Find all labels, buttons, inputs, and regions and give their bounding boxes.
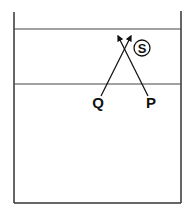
court-diagram: S Q P xyxy=(0,0,192,216)
arrow-from-q xyxy=(101,36,131,96)
player-s-marker: S xyxy=(134,40,150,56)
player-s-label: S xyxy=(138,41,147,56)
player-p-label: P xyxy=(146,94,156,111)
player-q-label: Q xyxy=(92,94,104,111)
